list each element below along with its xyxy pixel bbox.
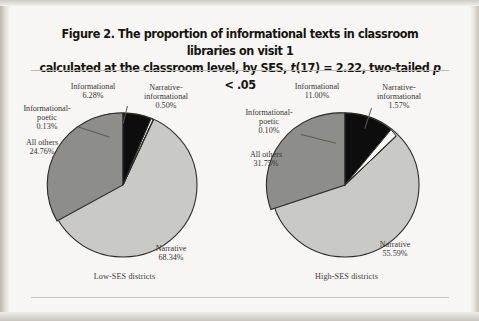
label-informational-low-ses-name: Informational [53, 82, 133, 91]
label-all-others-high-ses-name: All others [231, 150, 301, 159]
label-informational-poetic-high-ses-name-a: Informational- [231, 108, 307, 117]
label-informational-poetic-low-ses-value: 0.13% [11, 122, 83, 131]
figure-page: Figure 2. The proportion of informationa… [0, 0, 479, 321]
label-all-others-low-ses-name: All others [9, 138, 75, 147]
panel-caption-low-ses: Low-SES districts [9, 272, 240, 281]
label-narrative-high-ses: Narrative 55.59% [359, 240, 431, 258]
label-narrative-informational-low-ses-value: 0.50% [129, 101, 203, 110]
label-informational-poetic-low-ses-name-b: poetic [11, 113, 83, 122]
label-informational-low-ses: Informational 6.28% [53, 82, 133, 100]
label-narrative-informational-high-ses-name-a: Narrative- [359, 83, 439, 92]
label-all-others-high-ses: All others 31.75% [231, 150, 301, 168]
label-narrative-low-ses-name: Narrative [135, 244, 207, 253]
label-all-others-high-ses-value: 31.75% [231, 159, 301, 168]
label-all-others-low-ses: All others 24.76% [9, 138, 75, 156]
label-all-others-low-ses-value: 24.76% [9, 147, 75, 156]
page-edge-left [0, 0, 9, 321]
label-informational-poetic-low-ses-name-a: Informational- [11, 104, 83, 113]
figure-body: Figure 2. The proportion of informationa… [9, 6, 471, 312]
label-informational-poetic-high-ses-value: 0.10% [231, 126, 307, 135]
label-narrative-informational-high-ses-name-b: informational [359, 92, 439, 101]
page-edge-right [471, 0, 479, 321]
label-narrative-low-ses-value: 68.34% [135, 253, 207, 262]
chart-panel-low-ses: Informational 6.28% Narrative- informati… [9, 72, 240, 292]
pie-svg-low-ses [43, 110, 203, 260]
label-informational-poetic-high-ses-name-b: poetic [231, 117, 307, 126]
label-narrative-low-ses: Narrative 68.34% [135, 244, 207, 262]
label-informational-low-ses-value: 6.28% [53, 91, 133, 100]
label-narrative-high-ses-name: Narrative [359, 240, 431, 249]
panel-caption-high-ses: High-SES districts [231, 272, 462, 281]
label-narrative-informational-low-ses: Narrative- informational 0.50% [129, 83, 203, 111]
label-informational-poetic-low-ses: Informational- poetic 0.13% [11, 104, 83, 132]
caption-line-1: Figure 2. The proportion of informationa… [62, 27, 419, 58]
label-informational-high-ses-name: Informational [277, 82, 357, 91]
label-informational-poetic-high-ses: Informational- poetic 0.10% [231, 108, 307, 136]
label-narrative-informational-low-ses-name-a: Narrative- [129, 83, 203, 92]
label-narrative-informational-low-ses-name-b: informational [129, 92, 203, 101]
label-narrative-informational-high-ses-value: 1.57% [359, 101, 439, 110]
chart-panel-high-ses: Informational 11.00% Narrative- informat… [231, 72, 462, 292]
label-narrative-informational-high-ses: Narrative- informational 1.57% [359, 83, 439, 111]
pie-slices-low-ses [47, 113, 197, 257]
caption-divider-rule [31, 70, 449, 71]
figure-bottom-rule [31, 297, 449, 298]
label-narrative-high-ses-value: 55.59% [359, 249, 431, 258]
page-edge-bottom [0, 312, 479, 321]
charts-area: Informational 6.28% Narrative- informati… [9, 72, 471, 292]
pie-chart-low-ses [43, 110, 203, 260]
label-informational-high-ses-value: 11.00% [277, 91, 357, 100]
label-informational-high-ses: Informational 11.00% [277, 82, 357, 100]
